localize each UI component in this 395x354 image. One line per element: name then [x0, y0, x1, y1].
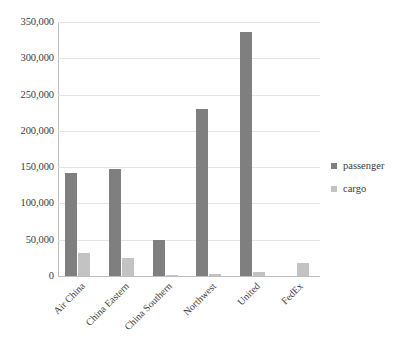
bar-group: [58, 22, 102, 276]
x-axis-category-label: China Eastern: [84, 281, 131, 328]
y-axis-tick-label: 350,000: [2, 17, 54, 28]
x-axis-line: [58, 276, 320, 277]
y-axis-tick-label: 250,000: [2, 90, 54, 101]
bar-group: [276, 22, 320, 276]
legend-swatch-icon: [331, 163, 337, 169]
bar-passenger: [65, 173, 77, 276]
x-axis-category-label: Northwest: [181, 281, 218, 318]
bar-cargo: [297, 263, 309, 276]
y-axis-tick-label: 200,000: [2, 126, 54, 137]
y-axis-tick-label: 0: [2, 271, 54, 282]
y-axis-tick-label: 300,000: [2, 53, 54, 64]
bar-cargo: [209, 274, 221, 276]
legend-label: cargo: [343, 184, 366, 195]
bar-cargo: [122, 258, 134, 276]
bar-group: [102, 22, 146, 276]
plot-area: [58, 22, 320, 276]
legend-item-cargo[interactable]: cargo: [331, 184, 384, 195]
bar-cargo: [253, 272, 265, 276]
x-axis-category-label: FedEx: [280, 281, 306, 307]
y-axis-tick-label: 50,000: [2, 235, 54, 246]
chart-legend: passengercargo: [331, 161, 384, 206]
bar-cargo: [166, 275, 178, 276]
bar-passenger: [153, 240, 165, 276]
legend-label: passenger: [343, 161, 384, 172]
y-axis-tick-labels: 350,000300,000250,000200,000150,000100,0…: [0, 0, 54, 354]
x-axis-category-label: Air China: [52, 281, 87, 316]
bar-group: [145, 22, 189, 276]
legend-item-passenger[interactable]: passenger: [331, 161, 384, 172]
bar-passenger: [196, 109, 208, 276]
bar-cargo: [78, 253, 90, 276]
y-axis-tick-label: 100,000: [2, 198, 54, 209]
legend-swatch-icon: [331, 186, 337, 192]
y-axis-tick-label: 150,000: [2, 162, 54, 173]
bar-group: [189, 22, 233, 276]
bar-chart: 350,000300,000250,000200,000150,000100,0…: [0, 0, 395, 354]
bar-passenger: [109, 169, 121, 276]
bar-group: [233, 22, 277, 276]
bar-passenger: [240, 32, 252, 276]
x-axis-category-label: United: [235, 281, 261, 307]
